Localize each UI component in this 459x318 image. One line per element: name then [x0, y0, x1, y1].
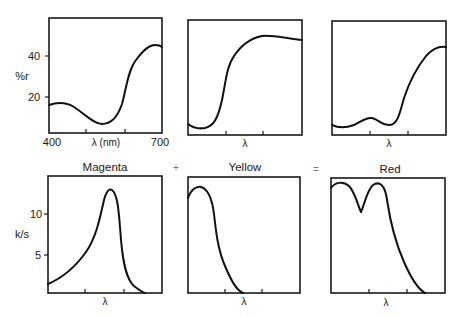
curve-red-reflectance — [332, 47, 446, 128]
lambda-label-bottom-2: λ — [242, 296, 247, 307]
y-tick-10: 10 — [30, 208, 42, 220]
lambda-label-bottom-1: λ — [103, 296, 108, 307]
curve-magenta-reflectance — [49, 45, 162, 124]
title-magenta: Magenta — [83, 161, 128, 173]
y-tick-20: 20 — [28, 91, 40, 103]
curve-red-ks — [331, 183, 425, 293]
equals-sign: = — [313, 164, 319, 175]
x-tick-400: 400 — [43, 136, 61, 148]
axis-ticks — [44, 56, 408, 293]
ks-axis-label: k/s — [15, 228, 29, 240]
title-yellow: Yellow — [229, 161, 262, 173]
curve-magenta-ks — [48, 189, 145, 293]
panel-frame-yellow-ks — [188, 177, 300, 293]
curve-yellow-reflectance — [188, 36, 302, 129]
wavelength-axis-label: λ (nm) — [92, 137, 120, 148]
y-tick-40: 40 — [28, 50, 40, 62]
reflectance-axis-label: %r — [15, 70, 28, 82]
plus-sign: + — [173, 162, 179, 173]
y-tick-5: 5 — [35, 249, 41, 261]
lambda-label-top-3: λ — [387, 138, 392, 149]
title-red: Red — [379, 163, 400, 175]
panel-frame-red-ks — [331, 178, 445, 293]
curve-yellow-ks — [188, 187, 243, 293]
panel-frame-magenta-reflectance — [49, 18, 162, 133]
spectral-curves-figure — [0, 0, 459, 318]
x-tick-700: 700 — [151, 136, 169, 148]
lambda-label-top-2: λ — [243, 138, 248, 149]
lambda-label-bottom-3: λ — [384, 297, 389, 308]
panel-frame-magenta-ks — [48, 176, 162, 293]
panel-frame-red-reflectance — [332, 21, 446, 135]
